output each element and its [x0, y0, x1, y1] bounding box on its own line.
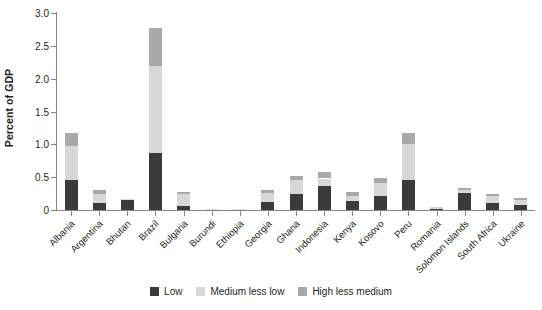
- plot-area: [57, 13, 535, 210]
- x-axis-tick-label-text: Kenya: [331, 218, 358, 245]
- x-axis-tick-label-text: Kosovo: [356, 218, 386, 248]
- x-axis-tick-label: Brazil: [137, 218, 162, 243]
- x-axis-tick-label-text: Indonesia: [293, 218, 330, 255]
- x-axis-tick-label-text: Peru: [392, 218, 414, 240]
- bar-segment[interactable]: [374, 178, 387, 183]
- bar-segment[interactable]: [149, 66, 162, 153]
- x-axis-tick-label: South Africa: [455, 218, 499, 262]
- bar-segment[interactable]: [121, 199, 134, 200]
- legend-item[interactable]: High less medium: [298, 286, 391, 297]
- bar-segment[interactable]: [486, 203, 499, 210]
- bar-group[interactable]: [149, 13, 162, 210]
- x-axis-tick: [437, 211, 438, 216]
- x-axis-tick-label: Bhutan: [104, 218, 133, 247]
- bar-segment[interactable]: [65, 133, 78, 147]
- bar-segment[interactable]: [261, 193, 274, 202]
- x-axis-tick-label: Ukraine: [496, 218, 527, 249]
- bar-segment[interactable]: [205, 209, 218, 210]
- x-axis-tick-label-text: Bulgaria: [157, 218, 189, 250]
- bar-segment[interactable]: [346, 196, 359, 202]
- bar-segment[interactable]: [458, 193, 471, 210]
- bar-group[interactable]: [486, 13, 499, 210]
- bar-segment[interactable]: [149, 28, 162, 65]
- bar-group[interactable]: [93, 13, 106, 210]
- bar-group[interactable]: [205, 13, 218, 210]
- bar-group[interactable]: [318, 13, 331, 210]
- bar-segment[interactable]: [93, 194, 106, 203]
- bar-segment[interactable]: [149, 153, 162, 210]
- bar-segment[interactable]: [514, 198, 527, 200]
- bar-segment[interactable]: [205, 209, 218, 210]
- bar-segment[interactable]: [65, 146, 78, 180]
- bar-group[interactable]: [290, 13, 303, 210]
- y-axis-tick-label: 1.0: [3, 139, 49, 150]
- bar-group[interactable]: [458, 13, 471, 210]
- bar-group[interactable]: [402, 13, 415, 210]
- bar-segment[interactable]: [430, 207, 443, 209]
- y-axis-tick: [51, 144, 57, 145]
- bar-segment[interactable]: [177, 194, 190, 206]
- bar-group[interactable]: [430, 13, 443, 210]
- legend-item[interactable]: Low: [150, 286, 182, 297]
- bar-segment[interactable]: [290, 180, 303, 193]
- bar-segment[interactable]: [93, 190, 106, 193]
- bar-segment[interactable]: [486, 194, 499, 196]
- bar-segment[interactable]: [458, 188, 471, 190]
- x-axis-tick: [184, 211, 185, 216]
- bar-segment[interactable]: [346, 192, 359, 195]
- bar-group[interactable]: [346, 13, 359, 210]
- bar-segment[interactable]: [121, 200, 134, 211]
- bar-group[interactable]: [233, 13, 246, 210]
- x-axis-tick-label: Ghana: [274, 218, 302, 246]
- legend-swatch-icon: [150, 287, 159, 296]
- x-axis-tick-label: Romania: [408, 218, 443, 253]
- bar-group[interactable]: [65, 13, 78, 210]
- bar-group[interactable]: [374, 13, 387, 210]
- legend-swatch-icon: [196, 287, 205, 296]
- bar-segment[interactable]: [402, 144, 415, 180]
- legend-item-label: Medium less low: [210, 286, 284, 297]
- bar-group[interactable]: [261, 13, 274, 210]
- legend-item-label: High less medium: [312, 286, 391, 297]
- x-axis-tick-label-text: Ghana: [274, 218, 302, 246]
- y-axis-tick-labels: 00.51.01.52.02.53.0: [0, 0, 49, 310]
- bar-segment[interactable]: [402, 133, 415, 145]
- bar-segment[interactable]: [346, 201, 359, 210]
- bar-segment[interactable]: [290, 176, 303, 181]
- bar-segment[interactable]: [177, 192, 190, 195]
- x-axis-tick-label: Georgia: [242, 218, 274, 250]
- bar-segment[interactable]: [93, 203, 106, 210]
- bar-segment[interactable]: [177, 206, 190, 210]
- bar-segment[interactable]: [458, 190, 471, 193]
- x-axis-tick: [99, 211, 100, 216]
- bar-segment[interactable]: [514, 205, 527, 210]
- bar-segment[interactable]: [233, 209, 246, 210]
- bar-group[interactable]: [121, 13, 134, 210]
- bar-segment[interactable]: [261, 202, 274, 210]
- x-axis-tick: [240, 211, 241, 216]
- bar-segment[interactable]: [374, 196, 387, 210]
- bar-group[interactable]: [177, 13, 190, 210]
- x-axis-tick-label-text: Bhutan: [104, 218, 133, 247]
- bar-segment[interactable]: [290, 194, 303, 210]
- bar-segment[interactable]: [402, 180, 415, 210]
- y-axis-tick-label: 0.5: [3, 172, 49, 183]
- y-axis-tick-label: 2.0: [3, 73, 49, 84]
- x-axis-tick-label: Indonesia: [293, 218, 330, 255]
- bar-segment[interactable]: [430, 209, 443, 210]
- bar-segment[interactable]: [65, 180, 78, 210]
- bar-segment[interactable]: [486, 196, 499, 203]
- bar-segment[interactable]: [261, 190, 274, 193]
- y-axis-tick: [51, 13, 57, 14]
- x-axis-tick: [268, 211, 269, 216]
- bar-segment[interactable]: [318, 179, 331, 187]
- x-axis-tick: [324, 211, 325, 216]
- bar-segment[interactable]: [318, 172, 331, 179]
- bar-group[interactable]: [514, 13, 527, 210]
- y-axis-tick: [51, 112, 57, 113]
- bar-segment[interactable]: [514, 200, 527, 206]
- x-axis-tick: [155, 211, 156, 216]
- legend-item[interactable]: Medium less low: [196, 286, 284, 297]
- bar-segment[interactable]: [374, 183, 387, 195]
- bar-segment[interactable]: [318, 186, 331, 210]
